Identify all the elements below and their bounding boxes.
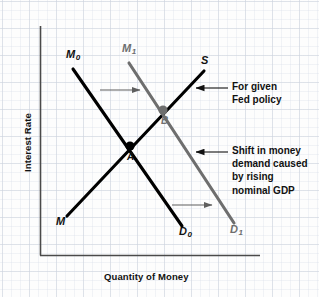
curve-label-d0-sub: 0 (187, 230, 192, 239)
y-axis-title: Interest Rate (22, 113, 33, 172)
annotation-money-demand-shift: Shift in money demand caused by rising n… (232, 144, 308, 197)
annotation-fed-policy: For given Fed policy (232, 80, 281, 106)
curve-label-s-text: S (201, 54, 208, 66)
equilibrium-point-b (158, 105, 167, 114)
curve-label-m-supply-text: M (56, 215, 65, 227)
curve-label-m-supply: M (56, 215, 65, 228)
curve-label-m1-sub: 1 (131, 47, 136, 56)
curve-label-m0-text: M (66, 48, 75, 60)
curve-label-d0: D0 (179, 225, 192, 239)
annotation-fed-policy-line-1: For given (232, 80, 281, 93)
curve-label-d1-text: D (230, 223, 238, 235)
annotation-shift-line-3: by rising (232, 170, 308, 183)
money-demand-curve-m1 (129, 63, 234, 223)
point-label-a: A (127, 151, 134, 163)
point-label-b: B (161, 115, 168, 127)
equilibrium-point-a (125, 141, 134, 150)
curve-label-d1: D1 (230, 223, 243, 237)
curve-label-m0-sub: 0 (75, 53, 80, 62)
annotation-shift-line-4: nominal GDP (232, 184, 308, 197)
x-axis-title: Quantity of Money (104, 271, 189, 282)
curve-label-m1-text: M (122, 42, 131, 54)
curve-label-d1-sub: 1 (238, 228, 243, 237)
curve-label-m1: M1 (122, 42, 136, 56)
curve-label-s: S (201, 54, 208, 67)
curve-label-d0-text: D (179, 225, 187, 237)
annotation-shift-line-1: Shift in money (232, 144, 308, 157)
curve-label-m0: M0 (66, 48, 80, 62)
annotation-shift-line-2: demand caused (232, 157, 308, 170)
annotation-fed-policy-line-2: Fed policy (232, 93, 281, 106)
money-market-diagram: M0 M1 S M D0 D1 A B For given Fed policy… (0, 0, 319, 297)
